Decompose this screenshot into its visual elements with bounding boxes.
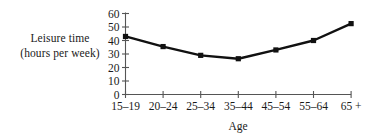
- data-point-marker: [236, 56, 241, 61]
- data-point-marker: [273, 47, 278, 52]
- series-line: [126, 24, 352, 59]
- y-axis-tick-label: 30: [108, 48, 120, 60]
- y-axis-tick-label: 60: [108, 8, 120, 20]
- line-chart-plot: 0102030405060 15–1920–2425–3435–4445–545…: [0, 0, 368, 139]
- data-point-marker: [123, 34, 128, 39]
- x-axis-tick-label: 45–54: [262, 100, 291, 112]
- y-axis-tick-label: 40: [108, 35, 120, 47]
- y-axis-tick-label: 50: [108, 21, 120, 33]
- chart-figure: Leisure time (hours per week) Age 010203…: [0, 0, 368, 139]
- y-axis-tick-label: 20: [108, 62, 120, 74]
- data-point-marker: [161, 44, 166, 49]
- x-axis-tick-label: 35–44: [224, 100, 253, 112]
- y-axis-tick-label: 10: [108, 75, 120, 87]
- x-axis-tick-label: 55–64: [299, 100, 328, 112]
- data-series-leisure-time: [123, 21, 354, 61]
- x-axis: 15–1920–2425–3435–4445–5455–6465 +: [111, 91, 361, 112]
- x-axis-tick-label: 20–24: [149, 100, 178, 112]
- data-point-marker: [198, 53, 203, 58]
- data-point-marker: [349, 21, 354, 26]
- y-axis: 0102030405060: [108, 8, 129, 101]
- x-axis-tick-label: 15–19: [111, 100, 140, 112]
- x-axis-tick-label: 25–34: [186, 100, 215, 112]
- x-axis-tick-label: 65 +: [341, 100, 362, 112]
- data-point-marker: [311, 38, 316, 43]
